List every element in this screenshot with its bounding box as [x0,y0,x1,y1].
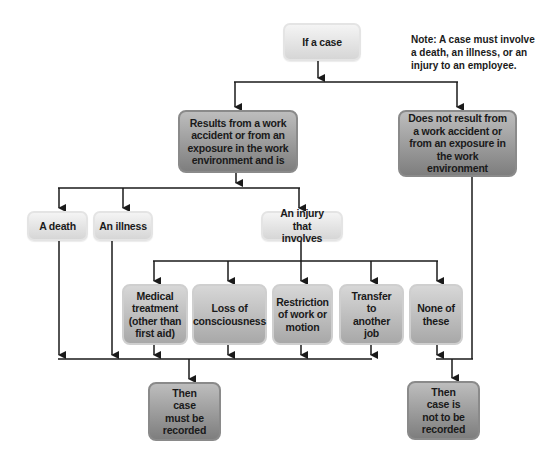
node-medical-treatment: Medical treatment (other than first aid) [122,284,188,345]
node-loss-of-consciousness: Loss of consciousness [192,284,267,345]
node-death-label: A death [39,220,76,233]
node-work-related-label: Results from a work accident or from an … [186,117,290,167]
note-text: Note: A case must involve a death, an il… [411,33,541,72]
node-death: A death [27,211,88,241]
flowchart: If a case Note: A case must involve a de… [0,0,541,464]
node-restriction: Restriction of work or motion [272,284,333,345]
node-transfer-label: Transfer to another job [347,290,396,340]
node-not-work-related: Does not result from a work accident or … [398,110,517,177]
node-not-work-related-label: Does not result from a work accident or … [408,112,507,175]
node-restriction-label: Restriction of work or motion [276,296,329,334]
node-start-label: If a case [302,36,342,49]
node-medical-label: Medical treatment (other than first aid) [128,290,182,340]
node-injury: An injury that involves [261,211,343,241]
node-injury-label: An injury that involves [273,207,331,245]
node-loss-label: Loss of consciousness [193,302,266,327]
node-illness-label: An illness [99,220,147,233]
node-recorded-label: Then case must be recorded [163,387,206,437]
node-not-recorded: Then case is not to be recorded [407,381,480,440]
node-transfer: Transfer to another job [339,284,404,345]
node-work-related: Results from a work accident or from an … [178,110,298,173]
node-recorded: Then case must be recorded [148,382,221,441]
node-none-label: None of these [417,302,455,327]
node-none: None of these [409,284,463,345]
node-illness: An illness [93,211,153,241]
node-not-recorded-label: Then case is not to be recorded [422,386,465,436]
node-start: If a case [283,23,361,61]
